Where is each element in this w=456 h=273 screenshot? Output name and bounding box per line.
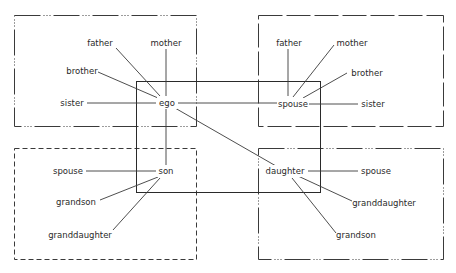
node-tr-brother: brother	[351, 68, 383, 78]
node-spouse: spouse	[278, 99, 308, 109]
node-tl-brother: brother	[66, 66, 98, 76]
links-daughter	[292, 171, 358, 233]
node-tl-sister: sister	[60, 98, 84, 108]
node-br-grandson: grandson	[336, 230, 376, 240]
node-tl-father: father	[87, 38, 113, 48]
node-bl-spouse: spouse	[53, 166, 83, 176]
links-son	[86, 171, 160, 230]
node-br-spouse: spouse	[361, 166, 391, 176]
node-tr-sister: sister	[361, 99, 385, 109]
node-ego: ego	[159, 98, 175, 108]
node-tl-mother: mother	[151, 38, 182, 48]
node-son: son	[158, 166, 173, 176]
frame-ego-family-of-orientation	[15, 16, 197, 127]
node-tr-father: father	[276, 38, 302, 48]
node-daughter: daughter	[266, 166, 305, 176]
kinship-diagram: father mother brother sister ego father …	[0, 0, 456, 273]
node-bl-granddaughter: granddaughter	[48, 230, 112, 240]
node-br-granddaughter: granddaughter	[352, 198, 416, 208]
node-bl-grandson: grandson	[56, 197, 96, 207]
links-spouse	[288, 45, 358, 104]
node-tr-mother: mother	[337, 38, 368, 48]
